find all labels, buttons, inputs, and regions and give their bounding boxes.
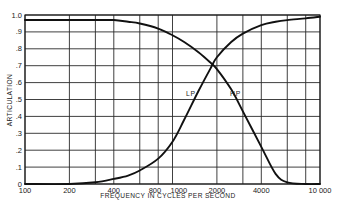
series-label-hp: HP <box>230 90 241 97</box>
y-tick-label: .3 <box>16 129 22 138</box>
y-axis-ticks: 0.1.2.3.4.5.6.7.8.91.0 <box>12 11 22 189</box>
y-tick-label: .8 <box>16 44 22 53</box>
x-tick-label: 200 <box>63 186 76 195</box>
y-tick-label: 1.0 <box>12 11 22 20</box>
y-tick-label: .1 <box>16 163 22 172</box>
x-tick-label: 4000 <box>253 186 270 195</box>
y-tick-label: .9 <box>16 27 22 36</box>
series-label-lp: LP <box>186 90 196 97</box>
articulation-chart: 0.1.2.3.4.5.6.7.8.91.0 10020040080010002… <box>0 0 350 212</box>
x-axis-label: FREQUENCY IN CYCLES PER SECOND <box>100 192 235 200</box>
y-tick-label: .2 <box>16 146 22 155</box>
x-tick-label: 100 <box>19 186 32 195</box>
y-tick-label: .5 <box>16 95 22 104</box>
y-axis-label: ARTICULATION <box>6 74 13 127</box>
y-tick-label: .6 <box>16 78 22 87</box>
y-tick-label: .7 <box>16 61 22 70</box>
y-tick-label: .4 <box>16 112 22 121</box>
x-tick-label: 10 000 <box>309 186 332 195</box>
